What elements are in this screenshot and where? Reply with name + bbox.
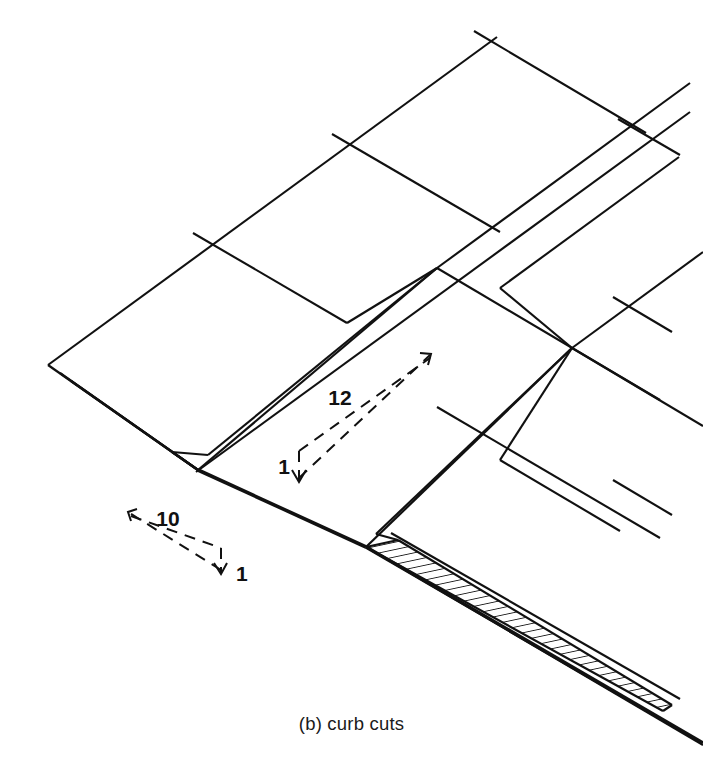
slope-label-left-run: 10 [156,507,179,530]
curb-right [366,533,680,711]
slope-label-right-rise: 1 [278,455,290,478]
curb-cut-axonometric-drawing: 10 1 12 1 [0,0,703,769]
slope-label-left-rise: 1 [236,562,248,585]
figure-caption: (b) curb cuts [0,713,703,735]
curb-right-hatch [366,540,672,711]
gutter-edge [198,470,703,743]
sidewalk-paving-grid-left [48,31,690,472]
slope-label-right-run: 12 [328,386,351,409]
figure-root: 10 1 12 1 (b) curb cuts [0,0,703,769]
